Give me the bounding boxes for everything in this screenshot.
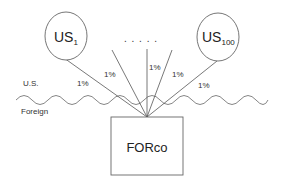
edge-label-3: 1%	[149, 63, 161, 72]
node-forco-label: FORco	[126, 140, 167, 155]
border-wave-line	[16, 96, 268, 105]
region-label-foreign: Foreign	[21, 107, 48, 116]
ellipsis-dots: . . . . .	[124, 33, 158, 44]
node-us1: US1	[45, 12, 87, 60]
region-label-us: U.S.	[23, 79, 39, 88]
node-us1-label: US	[54, 29, 73, 45]
edge-label-5: 1%	[198, 81, 210, 90]
edge-label-4: 1%	[172, 70, 184, 79]
node-us100-label: US	[202, 29, 221, 45]
edge-label-2: 1%	[104, 70, 116, 79]
edge-2	[112, 50, 147, 117]
node-us1-subscript: 1	[73, 38, 78, 47]
node-us100-subscript: 100	[221, 38, 235, 47]
node-us100: US100	[197, 13, 239, 61]
ownership-diagram: US1 US100 . . . . . 1% 1% 1% 1% 1% U.S. …	[0, 0, 284, 186]
edge-label-1: 1%	[77, 79, 89, 88]
node-forco: FORco	[111, 117, 183, 175]
